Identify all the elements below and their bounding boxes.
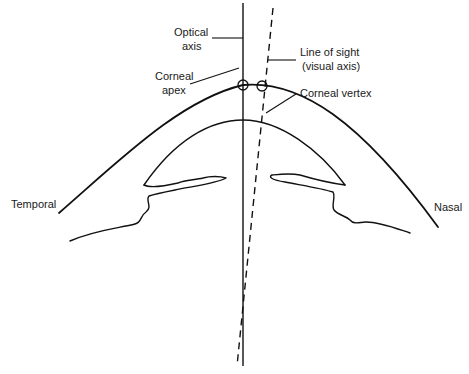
corneal-vertex-leader bbox=[266, 94, 296, 113]
iris-right bbox=[271, 174, 410, 233]
line-of-sight-label-line1: Line of sight bbox=[300, 46, 359, 58]
optical-axis-label-line1: Optical bbox=[174, 26, 208, 38]
inner-cornea-curve bbox=[144, 120, 345, 185]
corneal-apex-label-line1: Corneal bbox=[155, 70, 194, 82]
outer-cornea-curve bbox=[59, 85, 438, 227]
iris-left bbox=[70, 177, 226, 242]
line-of-sight-label-line2: (visual axis) bbox=[302, 60, 360, 72]
corneal-vertex-label: Corneal vertex bbox=[300, 87, 372, 99]
temporal-label: Temporal bbox=[11, 198, 56, 210]
nasal-label: Nasal bbox=[434, 201, 462, 213]
corneal-apex-label-line2: apex bbox=[162, 84, 186, 96]
optical-axis-label-line2: axis bbox=[182, 40, 202, 52]
eye-axes-diagram: Optical axis Line of sight (visual axis)… bbox=[0, 0, 469, 374]
corneal-apex-leader bbox=[190, 68, 239, 84]
